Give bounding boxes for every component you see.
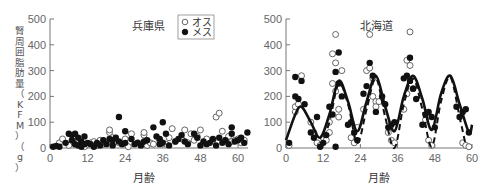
x-tick-label: 48: [194, 152, 206, 164]
data-point: [360, 91, 366, 97]
y-tick-label: 500: [264, 13, 282, 25]
data-point: [163, 131, 169, 137]
data-point: [229, 124, 235, 130]
data-point: [332, 69, 338, 75]
data-point: [336, 106, 342, 112]
data-point: [81, 133, 87, 139]
svg-text:M: M: [16, 120, 24, 131]
data-point: [407, 29, 413, 35]
svg-text:（: （: [15, 141, 25, 152]
svg-text:周: 周: [15, 36, 25, 47]
data-point: [160, 140, 166, 146]
x-tick-label: 0: [47, 152, 53, 164]
data-point: [107, 127, 113, 133]
data-point: [219, 128, 225, 134]
y-axis-label: 腎周囲脂肪量（KFM）（g）: [15, 25, 25, 173]
data-point: [298, 78, 304, 84]
data-point: [463, 106, 469, 112]
data-point: [116, 114, 122, 120]
chart-hyogo: 010020030040050001224364860兵庫県月齢腎周囲脂肪量（K…: [15, 13, 251, 185]
y-tick-label: 400: [28, 39, 46, 51]
data-point: [150, 141, 156, 147]
x-tick-label: 60: [232, 152, 244, 164]
data-point: [122, 140, 128, 146]
y-tick-label: 100: [28, 116, 46, 128]
data-point: [241, 140, 247, 146]
data-point: [330, 81, 336, 87]
data-point: [363, 83, 369, 89]
data-point: [330, 51, 336, 57]
data-point: [166, 142, 172, 148]
data-point: [295, 96, 301, 102]
data-point: [407, 55, 413, 61]
svg-text:量: 量: [15, 78, 25, 89]
svg-text:囲: 囲: [15, 46, 25, 57]
svg-text:腎: 腎: [15, 25, 25, 36]
x-tick-label: 12: [81, 152, 93, 164]
x-tick-label: 24: [354, 152, 366, 164]
data-point: [109, 142, 115, 148]
chart-hokkaido: 010020030040050001224364860北海道月齢: [264, 13, 478, 185]
svg-text:F: F: [17, 109, 22, 120]
data-point: [244, 129, 250, 135]
svg-text:（: （: [15, 88, 25, 99]
y-tick-label: 300: [28, 65, 46, 77]
data-point: [333, 31, 339, 37]
svg-text:）: ）: [15, 130, 25, 141]
data-point: [210, 136, 216, 142]
legend: オスメス: [178, 15, 214, 39]
x-tick-label: 12: [317, 152, 329, 164]
legend-label: メス: [192, 27, 212, 38]
data-point: [407, 62, 413, 68]
chart-title: 兵庫県: [132, 19, 165, 33]
data-point: [336, 114, 342, 120]
data-point: [194, 134, 200, 140]
data-point: [339, 93, 345, 99]
x-axis-label: 月齢: [133, 171, 155, 185]
data-point: [144, 137, 150, 143]
y-tick-label: 200: [28, 90, 46, 102]
filled-circle-icon: [182, 29, 188, 35]
data-point: [367, 31, 373, 37]
svg-text:g: g: [17, 151, 23, 162]
data-point: [160, 119, 166, 125]
x-tick-label: 36: [157, 152, 169, 164]
data-point: [373, 109, 379, 115]
data-point: [466, 144, 472, 150]
data-point: [185, 141, 191, 147]
data-point: [225, 141, 231, 147]
svg-text:肪: 肪: [15, 67, 25, 78]
data-point: [336, 49, 342, 55]
y-tick-label: 500: [28, 13, 46, 25]
data-point: [182, 127, 188, 133]
data-point: [197, 127, 203, 133]
x-tick-label: 24: [119, 152, 131, 164]
data-point: [332, 144, 338, 150]
svg-text:脂: 脂: [15, 57, 25, 68]
chart-root: 010020030040050001224364860兵庫県月齢腎周囲脂肪量（K…: [0, 0, 493, 194]
svg-text:K: K: [17, 99, 24, 110]
svg-text:）: ）: [15, 162, 25, 173]
x-tick-label: 60: [466, 152, 478, 164]
y-tick-label: 200: [264, 90, 282, 102]
chart-title: 北海道: [360, 19, 393, 33]
data-point: [429, 114, 435, 120]
data-point: [333, 60, 339, 66]
y-tick-label: 300: [264, 65, 282, 77]
y-tick-label: 100: [264, 116, 282, 128]
data-point: [62, 140, 68, 146]
data-point: [339, 68, 345, 74]
data-point: [122, 128, 128, 134]
data-point: [410, 85, 416, 91]
data-point: [213, 142, 219, 148]
x-tick-label: 36: [391, 152, 403, 164]
data-point: [141, 130, 147, 136]
data-point: [229, 131, 235, 137]
y-tick-label: 0: [276, 142, 282, 154]
data-point: [150, 124, 156, 130]
y-tick-label: 0: [40, 142, 46, 154]
data-point: [367, 60, 373, 66]
data-point: [178, 132, 184, 138]
x-axis-label: 月齢: [368, 171, 390, 185]
data-point: [292, 74, 298, 80]
